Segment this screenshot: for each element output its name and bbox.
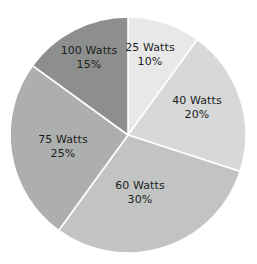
pie-chart: 25 Watts10%40 Watts20%60 Watts30%75 Watt…	[0, 0, 257, 264]
slice-label-percent: 30%	[115, 192, 165, 206]
slice-label-name: 40 Watts	[172, 94, 222, 108]
pie-slice-label-25-watts: 25 Watts10%	[125, 41, 175, 68]
slice-label-name: 75 Watts	[38, 133, 88, 147]
slice-label-name: 60 Watts	[115, 179, 165, 193]
slice-label-percent: 20%	[172, 107, 222, 121]
slice-label-name: 100 Watts	[61, 44, 118, 58]
slice-label-percent: 10%	[125, 54, 175, 68]
pie-slice-label-75-watts: 75 Watts25%	[38, 133, 88, 160]
slice-label-percent: 15%	[61, 57, 118, 71]
pie-slice-label-100-watts: 100 Watts15%	[61, 44, 118, 71]
slice-label-percent: 25%	[38, 146, 88, 160]
slice-label-name: 25 Watts	[125, 41, 175, 55]
pie-slice-label-40-watts: 40 Watts20%	[172, 94, 222, 121]
pie-slice-label-60-watts: 60 Watts30%	[115, 179, 165, 206]
